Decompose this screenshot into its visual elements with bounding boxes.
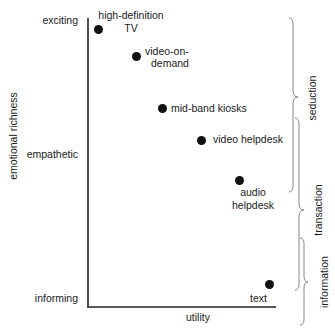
- label-kiosks: mid-band kiosks: [171, 102, 247, 114]
- label-text: text: [250, 292, 267, 304]
- point-vod: [132, 52, 141, 61]
- y-axis-title: emotional richness: [7, 81, 19, 191]
- y-level-exciting: exciting: [18, 14, 78, 26]
- label-vod-2: demand: [151, 57, 189, 69]
- bracket-transaction: [295, 118, 304, 290]
- x-axis-title: utility: [186, 311, 210, 323]
- point-text: [265, 280, 274, 289]
- point-audio-helpdesk: [235, 176, 244, 185]
- bracket-label-seduction: seduction: [306, 68, 318, 128]
- label-video-helpdesk: video helpdesk: [213, 133, 283, 145]
- label-hdtv-2: TV: [96, 22, 166, 34]
- y-level-empathetic: empathetic: [18, 148, 78, 160]
- label-hdtv-1: high-definition: [96, 9, 166, 21]
- bracket-information: [300, 238, 308, 325]
- point-video-helpdesk: [197, 136, 206, 145]
- bracket-label-transaction: transaction: [312, 175, 324, 245]
- label-audio-helpdesk-2: helpdesk: [228, 199, 278, 211]
- y-level-informing: informing: [18, 292, 78, 304]
- label-audio-helpdesk-1: audio: [228, 186, 278, 198]
- label-vod-1: video-on-: [145, 45, 189, 57]
- bracket-label-information: information: [318, 247, 330, 317]
- point-kiosks: [158, 104, 167, 113]
- bracket-seduction: [289, 18, 298, 192]
